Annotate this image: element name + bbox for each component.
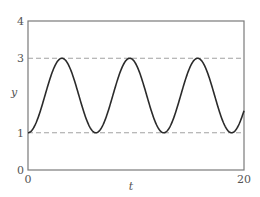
y-tick-labels: 0134: [17, 15, 24, 177]
y-axis-label: y: [10, 86, 18, 99]
x-axis-label: t: [129, 180, 134, 193]
x-tick-label: 0: [25, 173, 32, 186]
reference-lines: [28, 58, 244, 133]
y-tick-label: 3: [17, 52, 24, 65]
y-tick-label: 0: [17, 164, 24, 177]
x-tick-labels: 020: [25, 173, 252, 186]
plot-frame: [28, 21, 244, 170]
plot-border: [28, 21, 244, 170]
chart: 0134 020 t y: [0, 0, 260, 197]
data-curve: [28, 58, 244, 133]
x-tick-label: 20: [237, 173, 251, 186]
y-tick-label: 1: [17, 127, 24, 140]
y-tick-label: 4: [17, 15, 24, 28]
